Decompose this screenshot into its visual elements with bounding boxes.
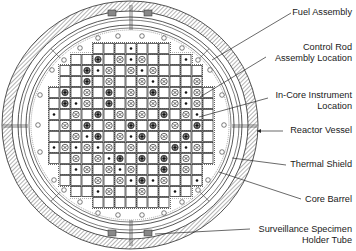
fuel-assembly xyxy=(126,55,136,65)
fuel-assembly-cell xyxy=(49,154,59,164)
fuel-assembly-cell xyxy=(170,77,180,87)
label-fuel-assembly: Fuel Assembly xyxy=(292,7,352,18)
flow-hole xyxy=(116,34,121,39)
fuel-assembly xyxy=(170,77,180,87)
fuel-assembly-cell xyxy=(137,121,147,131)
control-rod-center xyxy=(97,58,100,61)
fuel-assembly-cell xyxy=(148,55,158,65)
flow-hole xyxy=(36,123,41,128)
fuel-assembly-cell xyxy=(159,55,169,65)
fuel-assembly xyxy=(71,143,81,153)
fuel-assembly xyxy=(137,132,147,142)
fuel-assembly xyxy=(126,187,136,197)
fuel-assembly xyxy=(60,99,70,109)
in-core-instrument-icon xyxy=(185,146,188,149)
flow-hole xyxy=(140,213,145,218)
fuel-assembly-cell xyxy=(203,132,213,142)
fuel-assembly-cell xyxy=(148,187,158,197)
fuel-assembly xyxy=(148,176,158,186)
fuel-assembly-cell xyxy=(137,198,147,208)
flow-hole xyxy=(38,150,43,155)
control-rod-center xyxy=(174,146,177,149)
fuel-assembly xyxy=(104,154,114,164)
in-core-instrument-icon xyxy=(185,58,188,61)
fuel-assembly-cell xyxy=(49,121,59,131)
label-line: Assembly Location xyxy=(275,53,352,64)
fuel-assembly-cell xyxy=(115,66,125,76)
flow-hole xyxy=(52,178,57,183)
fuel-assembly xyxy=(93,143,103,153)
flow-hole xyxy=(208,68,213,73)
fuel-assembly xyxy=(181,165,191,175)
fuel-assembly xyxy=(104,176,114,186)
control-rod-center xyxy=(163,168,166,171)
fuel-assembly-cell xyxy=(104,44,114,54)
flow-hole xyxy=(96,211,101,216)
flow-hole xyxy=(96,36,101,41)
fuel-assembly-cell xyxy=(203,154,213,164)
fuel-assembly xyxy=(159,110,169,120)
fuel-assembly xyxy=(148,143,158,153)
in-core-instrument-icon xyxy=(130,135,133,138)
control-rod-center xyxy=(108,91,111,94)
fuel-assembly xyxy=(159,143,169,153)
fuel-assembly xyxy=(82,176,92,186)
flow-hole xyxy=(196,188,201,193)
fuel-assembly-cell xyxy=(49,132,59,142)
fuel-assembly xyxy=(82,132,92,142)
fuel-assembly-cell xyxy=(192,66,202,76)
flow-hole xyxy=(220,150,225,155)
fuel-assembly xyxy=(104,132,114,142)
fuel-assembly xyxy=(104,110,114,120)
fuel-assembly xyxy=(170,66,180,76)
label-line: Fuel Assembly xyxy=(292,7,352,18)
fuel-assembly xyxy=(181,77,191,87)
fuel-assembly-cell xyxy=(93,77,103,87)
fuel-assembly xyxy=(192,110,202,120)
fuel-assembly-cell xyxy=(170,165,180,175)
in-core-instrument-icon xyxy=(130,47,133,50)
surveillance-specimen-holder xyxy=(108,230,116,236)
fuel-assembly xyxy=(82,55,92,65)
fuel-assembly xyxy=(126,88,136,98)
core-grid xyxy=(36,34,227,218)
label-core-barrel: Core Barrel xyxy=(305,194,352,205)
fuel-assembly-cell xyxy=(159,187,169,197)
fuel-assembly xyxy=(82,77,92,87)
fuel-assembly xyxy=(115,110,125,120)
label-line: Holder Tube xyxy=(259,235,352,246)
fuel-assembly-cell xyxy=(60,66,70,76)
fuel-assembly xyxy=(192,176,202,186)
control-rod-center xyxy=(119,157,122,160)
fuel-assembly xyxy=(148,154,158,164)
fuel-assembly xyxy=(181,187,191,197)
fuel-assembly xyxy=(71,165,81,175)
fuel-assembly-cell xyxy=(104,176,114,186)
fuel-assembly xyxy=(159,44,169,54)
fuel-assembly xyxy=(71,88,81,98)
in-core-instrument-icon xyxy=(108,157,111,160)
in-core-instrument-icon xyxy=(75,168,78,171)
fuel-assembly xyxy=(93,154,103,164)
label-line: Surveillance Specimen xyxy=(259,224,352,235)
flow-hole xyxy=(50,68,55,73)
fuel-assembly-cell xyxy=(104,55,114,65)
fuel-assembly xyxy=(148,66,158,76)
fuel-assembly xyxy=(181,176,191,186)
in-core-instrument-icon xyxy=(75,146,78,149)
fuel-assembly-cell xyxy=(170,55,180,65)
flow-hole xyxy=(62,58,67,63)
fuel-assembly xyxy=(60,176,70,186)
control-rod-center xyxy=(141,179,144,182)
fuel-assembly xyxy=(148,121,158,131)
flow-hole xyxy=(222,123,227,128)
fuel-assembly-cell xyxy=(71,55,81,65)
control-rod-center xyxy=(130,124,133,127)
fuel-assembly-cell xyxy=(115,88,125,98)
fuel-assembly-cell xyxy=(170,154,180,164)
fuel-assembly xyxy=(170,187,180,197)
control-rod-center xyxy=(163,113,166,116)
fuel-assembly xyxy=(148,132,158,142)
in-core-instrument-icon xyxy=(130,58,133,61)
in-core-instrument-icon xyxy=(97,69,100,72)
